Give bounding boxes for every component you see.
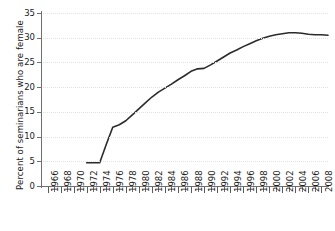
x-tick-mark [217,187,218,193]
x-tick-label: 2002 [286,170,295,192]
x-tick-label: 1970 [77,170,86,192]
x-tick-label: 1974 [103,170,112,192]
x-tick-label: 1968 [64,170,73,192]
x-tick-mark [321,187,322,193]
x-tick-label: 1982 [155,170,164,192]
x-tick-label: 1980 [142,170,151,192]
x-tick-mark [48,187,49,193]
x-tick-mark [100,187,101,193]
x-tick-label: 1978 [129,170,138,192]
x-tick-label: 1996 [247,170,256,192]
gridline [41,137,328,138]
gridline [41,87,328,88]
y-tick-mark [37,87,41,88]
gridline [41,13,328,14]
data-line-series [41,13,328,186]
x-tick-mark [191,187,192,193]
x-tick-label: 1976 [116,170,125,192]
y-tick-label: 15 [5,107,35,116]
chart-container: Percent of seminarians who are female 05… [0,0,335,231]
plot-area [41,13,328,186]
x-tick-mark [126,187,127,193]
x-tick-label: 1988 [195,170,204,192]
y-tick-label: 20 [5,83,35,92]
x-tick-label: 2000 [273,170,282,192]
y-axis-spine [41,11,42,188]
x-tick-label: 2004 [299,170,308,192]
y-tick-label: 25 [5,58,35,67]
x-tick-mark [74,187,75,193]
y-tick-mark [37,186,41,187]
x-tick-mark [282,187,283,193]
x-tick-mark [243,187,244,193]
y-tick-mark [37,62,41,63]
y-tick-mark [37,112,41,113]
gridline [41,161,328,162]
x-tick-mark [308,187,309,193]
y-tick-mark [37,13,41,14]
gridline [41,62,328,63]
x-tick-mark [61,187,62,193]
x-tick-mark [139,187,140,193]
y-tick-label: 30 [5,33,35,42]
y-tick-mark [37,137,41,138]
gridline [41,112,328,113]
y-axis-tick-labels: 05101520253035 [0,0,35,231]
x-tick-label: 1986 [181,170,190,192]
y-tick-label: 35 [5,9,35,18]
x-tick-label: 1972 [90,170,99,192]
x-tick-label: 1990 [208,170,217,192]
x-tick-mark [165,187,166,193]
y-tick-label: 0 [5,182,35,191]
x-tick-label: 2006 [312,170,321,192]
x-tick-label: 2008 [325,170,334,192]
x-tick-mark [152,187,153,193]
y-tick-label: 5 [5,157,35,166]
x-tick-label: 1998 [260,170,269,192]
x-tick-label: 1984 [168,170,177,192]
x-tick-mark [295,187,296,193]
x-tick-label: 1994 [234,170,243,192]
x-tick-mark [230,187,231,193]
y-tick-mark [37,161,41,162]
x-tick-mark [256,187,257,193]
x-tick-label: 1966 [51,170,60,192]
x-tick-mark [204,187,205,193]
x-tick-mark [269,187,270,193]
y-tick-mark [37,38,41,39]
x-tick-mark [113,187,114,193]
x-tick-mark [87,187,88,193]
y-tick-label: 10 [5,132,35,141]
x-tick-mark [178,187,179,193]
x-tick-label: 1992 [221,170,230,192]
gridline [41,38,328,39]
